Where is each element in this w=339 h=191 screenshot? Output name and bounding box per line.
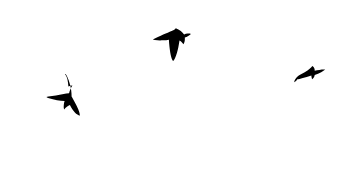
bird-silhouette-illustration	[0, 0, 339, 191]
sky-scene: Three birds in flight silhouetted agains…	[0, 0, 339, 191]
sky-background	[0, 0, 339, 191]
